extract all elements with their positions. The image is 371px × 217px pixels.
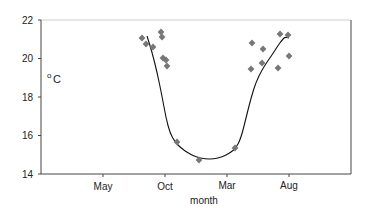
y-tick-22: 22 [22, 15, 34, 26]
data-point [260, 46, 267, 53]
x-tick-labels: May Oct Mar Aug [94, 180, 298, 192]
data-point [174, 139, 181, 146]
x-tick-oct: Oct [157, 181, 173, 192]
x-tick-may: May [94, 181, 113, 192]
y-unit-label: C [53, 73, 61, 85]
data-point [249, 40, 256, 47]
data-point [196, 157, 203, 164]
data-point [277, 31, 284, 38]
x-tick-mar: Mar [218, 180, 236, 191]
x-axis-title: month [190, 195, 218, 206]
x-tick-aug: Aug [280, 180, 298, 191]
y-tick-18: 18 [22, 92, 34, 103]
temperature-chart: 22 20 18 16 14 o C May Oct Mar Aug month [0, 0, 371, 217]
data-point [286, 53, 293, 60]
data-point [159, 34, 166, 41]
y-tick-16: 16 [22, 130, 34, 141]
y-tick-20: 20 [22, 53, 34, 64]
y-tick-14: 14 [22, 169, 34, 180]
data-point [248, 66, 255, 73]
data-point [158, 29, 165, 36]
data-point [139, 35, 146, 42]
data-point [275, 65, 282, 72]
data-point [164, 63, 171, 70]
y-axis-unit: o C [47, 71, 61, 85]
y-tick-labels: 22 20 18 16 14 [22, 15, 34, 180]
fitted-curve [147, 36, 289, 159]
y-unit-superscript: o [47, 71, 52, 80]
